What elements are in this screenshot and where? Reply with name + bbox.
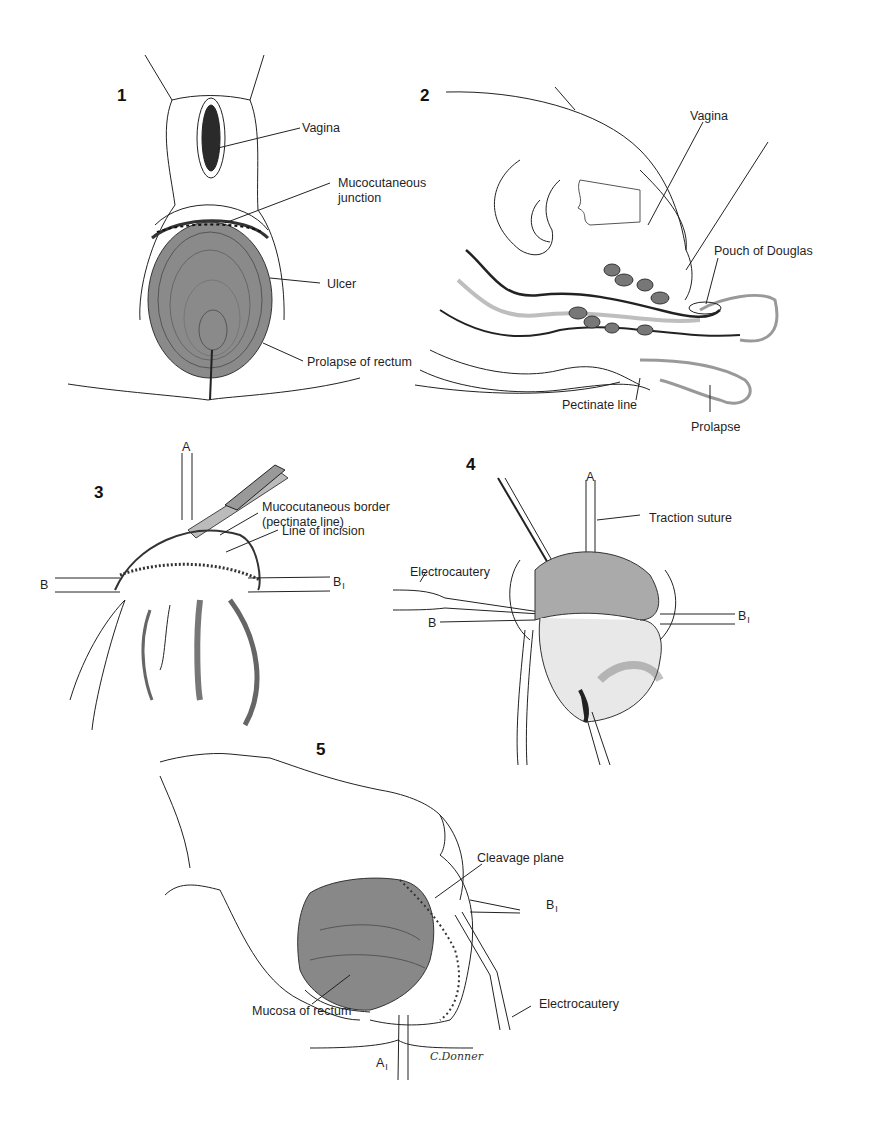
label-pouch-of-douglas-fig2: Pouch of Douglas: [714, 244, 813, 259]
figure-number-3: 3: [94, 483, 103, 503]
figure-5-drawing: [160, 753, 520, 1080]
label-cleavage-plane-fig5: Cleavage plane: [477, 851, 564, 866]
leader-prolapse-1: [263, 343, 303, 361]
label-mucocutaneous-border-fig3: Mucocutaneous border: [262, 500, 390, 515]
label-a-fig3: A: [182, 440, 190, 455]
figure-number-1: 1: [117, 86, 126, 106]
label-a1-subscript-fig5: I: [385, 1062, 388, 1072]
label-b-fig3: B: [40, 578, 48, 593]
label-b1-fig4: BI: [738, 609, 750, 628]
label-b1-subscript-fig3: I: [342, 581, 345, 591]
figure-number-2: 2: [420, 86, 429, 106]
label-b-fig4: B: [428, 616, 436, 631]
label-b1-subscript-fig5: I: [555, 904, 558, 914]
label-b1-fig3: BI: [333, 575, 345, 594]
label-b1-letter-fig4: B: [738, 609, 746, 623]
label-electrocautery-fig5: Electrocautery: [539, 997, 619, 1012]
label-b1-fig5: BI: [546, 898, 558, 917]
label-pectinate-line-fig2: Pectinate line: [562, 398, 637, 413]
leader-ulcer-1: [270, 278, 320, 283]
leader-traction-suture: [597, 515, 640, 520]
label-prolapse-fig2: Prolapse: [691, 420, 740, 435]
label-a1-fig5: AI: [376, 1056, 388, 1075]
leader-pouch-of-douglas: [706, 258, 718, 304]
label-vagina-fig1: Vagina: [302, 121, 340, 136]
leader-vagina-2: [648, 122, 703, 225]
label-traction-suture-fig4: Traction suture: [649, 511, 732, 526]
leader-mucocutaneous-1: [225, 183, 330, 223]
leader-electrocautery-5: [512, 1006, 531, 1017]
label-electrocautery-fig4: Electrocautery: [410, 565, 490, 580]
label-a-fig4: A: [586, 470, 594, 485]
figure-number-4: 4: [466, 455, 475, 475]
artist-signature: C.Donner: [430, 1050, 483, 1063]
label-a1-letter-fig5: A: [376, 1056, 384, 1070]
leader-vagina-1: [218, 128, 300, 148]
label-line-of-incision-fig3: Line of incision: [282, 524, 365, 539]
figure-1-drawing: [68, 55, 360, 400]
label-junction-fig1: junction: [338, 191, 381, 206]
leader-cleavage-plane: [435, 864, 482, 898]
label-b1-letter-fig5: B: [546, 898, 554, 912]
leader-pectinate-line: [636, 378, 640, 400]
label-mucosa-of-rectum-fig5: Mucosa of rectum: [252, 1004, 351, 1019]
label-b1-letter-fig3: B: [333, 575, 341, 589]
label-ulcer-fig1: Ulcer: [327, 277, 356, 292]
figure-number-5: 5: [316, 740, 325, 760]
label-prolapse-of-rectum-fig1: Prolapse of rectum: [307, 355, 412, 370]
label-b1-subscript-fig4: I: [747, 615, 750, 625]
label-vagina-fig2: Vagina: [690, 109, 728, 124]
label-mucocutaneous-fig1: Mucocutaneous: [338, 176, 426, 191]
